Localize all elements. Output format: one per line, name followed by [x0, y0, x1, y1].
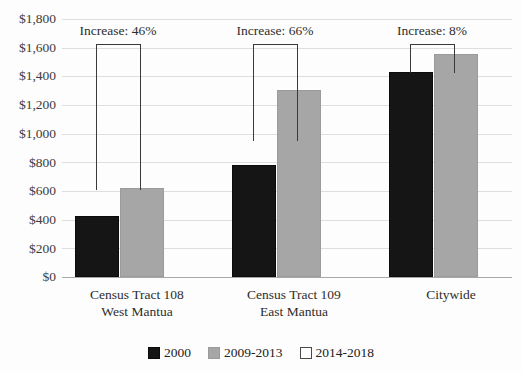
bar-chart: $1,800 $1,600 $1,400 $1,200 $1,000 $800 … — [0, 0, 522, 372]
legend-label: 2009-2013 — [224, 345, 283, 361]
increase-label: Increase: 66% — [200, 24, 350, 38]
y-axis-tick-label: $400 — [0, 213, 56, 227]
y-axis-tick-label: $600 — [0, 184, 56, 198]
x-axis-line — [62, 277, 512, 278]
y-axis-tick-label: $1,600 — [0, 41, 56, 55]
legend-item-2014-2018: 2014-2018 — [300, 345, 375, 361]
increase-bracket — [253, 44, 298, 141]
legend-item-2009-2013: 2009-2013 — [208, 345, 283, 361]
increase-bracket — [96, 44, 141, 190]
legend-swatch-icon — [300, 347, 312, 359]
x-axis-category-line: Citywide — [376, 286, 522, 303]
legend-swatch-icon — [148, 347, 160, 359]
bar-group: Increase: 8% — [376, 19, 522, 277]
x-axis-category-line: West Mantua — [62, 303, 212, 320]
bar-2000 — [232, 165, 276, 277]
bar-group: Increase: 66% — [219, 19, 369, 277]
x-axis-category-line: Census Tract 109 — [219, 286, 369, 303]
increase-label: Increase: 8% — [357, 24, 507, 38]
bar-group: Increase: 46% — [62, 19, 212, 277]
x-axis-category-label: Census Tract 108 West Mantua — [62, 286, 212, 320]
y-axis-tick-label: $0 — [0, 270, 56, 284]
x-axis-category-line: Census Tract 108 — [62, 286, 212, 303]
bar-2000 — [389, 72, 433, 278]
y-axis-tick-label: $1,400 — [0, 69, 56, 83]
chart-legend: 2000 2009-2013 2014-2018 — [0, 345, 522, 361]
bar-2009-2013 — [120, 188, 164, 277]
legend-swatch-icon — [208, 347, 220, 359]
bar-2009-2013 — [434, 54, 478, 277]
x-axis-category-line: East Mantua — [219, 303, 369, 320]
x-axis-category-label: Census Tract 109 East Mantua — [219, 286, 369, 320]
increase-label: Increase: 46% — [43, 24, 193, 38]
y-axis-tick-label: $800 — [0, 156, 56, 170]
plot-area: Increase: 46% Increase: 66% Increase: 8% — [62, 19, 512, 277]
x-axis-category-label: Citywide — [376, 286, 522, 303]
increase-bracket — [410, 44, 455, 73]
y-axis-tick-label: $1,200 — [0, 98, 56, 112]
y-axis-tick-label: $1,000 — [0, 127, 56, 141]
legend-label: 2000 — [164, 345, 191, 361]
y-axis-tick-label: $200 — [0, 242, 56, 256]
bar-2000 — [75, 216, 119, 277]
legend-item-2000: 2000 — [148, 345, 191, 361]
legend-label: 2014-2018 — [316, 345, 375, 361]
